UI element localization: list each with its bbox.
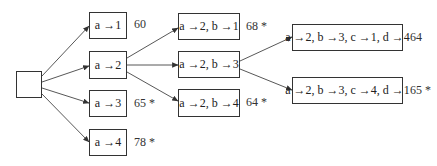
- node-a1: a →1: [89, 12, 127, 39]
- node-value: 65 *: [134, 96, 155, 111]
- node-label: a →4: [95, 135, 121, 150]
- node-value: 65 *: [410, 83, 431, 98]
- node-a2-b3-c4-d1: a →2, b →3, c →4, d →1: [292, 77, 403, 104]
- node-a2-b1: a →2, b →1: [178, 13, 240, 40]
- node-label: a →2: [95, 58, 121, 73]
- node-a2-b3: a →2, b →3: [178, 51, 240, 78]
- node-a3: a →3: [89, 90, 127, 117]
- node-value: 78 *: [134, 135, 155, 150]
- node-label: a →3: [95, 96, 121, 111]
- node-label: a →2, b →1: [179, 19, 238, 34]
- node-label: a →2, b →3: [179, 57, 238, 72]
- node-a2: a →2: [89, 51, 127, 79]
- edge-a2-b1: [127, 28, 178, 58]
- node-label: a →2, b →3, c →4, d →1: [285, 83, 410, 98]
- node-a2-b4: a →2, b →4: [178, 89, 240, 117]
- node-label: a →1: [95, 18, 121, 33]
- node-value: 68 *: [246, 19, 267, 34]
- node-value: 64: [410, 30, 422, 45]
- root-node: [16, 71, 42, 98]
- node-value: 60: [134, 17, 146, 32]
- node-value: 64 *: [246, 95, 267, 110]
- node-a4: a →4: [89, 129, 127, 156]
- node-a2-b3-c1-d4: a →2, b →3, c →1, d →4: [292, 24, 403, 51]
- node-label: a →2, b →3, c →1, d →4: [285, 30, 410, 45]
- node-label: a →2, b →4: [179, 96, 238, 111]
